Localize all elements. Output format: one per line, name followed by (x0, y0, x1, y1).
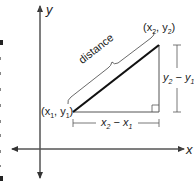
cropped-text-fragment (0, 176, 3, 181)
vertical-leg-label: y2 − y1 (163, 72, 194, 85)
point-2-label: (x2, y2) (143, 22, 175, 35)
y-axis-label: y (46, 3, 53, 16)
cropped-text-fragment (0, 40, 3, 45)
cropped-text-fragment (0, 72, 1, 75)
cropped-text-fragment (0, 57, 1, 60)
cropped-text-fragment (0, 165, 1, 167)
x-axis-label: x (186, 143, 193, 156)
right-angle-marker (152, 105, 159, 112)
point-1-label: (x1, y1) (41, 106, 73, 119)
cropped-text-fragment (0, 134, 1, 137)
cropped-text-fragment (0, 104, 1, 107)
distance-diagram: y x (x2, y2) (x1, y1) distance x2 − x1 y… (0, 0, 194, 183)
cropped-text-fragment (0, 88, 1, 91)
cropped-text-fragment (0, 150, 1, 153)
horizontal-leg-label: x2 − x1 (101, 117, 132, 130)
cropped-text-fragment (0, 120, 1, 123)
